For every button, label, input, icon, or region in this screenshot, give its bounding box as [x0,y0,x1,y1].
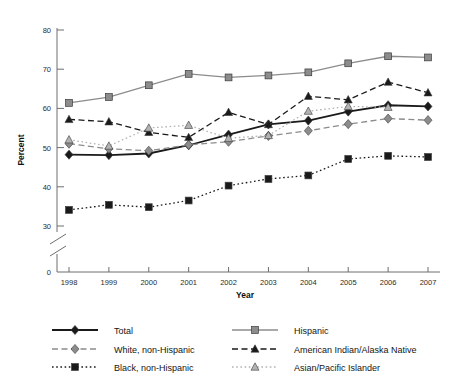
chart-container: 8070605040300 19981999200020012002200320… [0,0,455,382]
x-axis-tick-label: 2000 [140,278,157,287]
x-axis-tick-label: 2003 [260,278,277,287]
legend-label: Total [114,326,133,336]
y-axis-tick-label: 60 [43,104,51,113]
x-axis-tick-label: 1998 [61,278,78,287]
data-point-marker [305,69,312,76]
x-axis-tick-label: 2002 [220,278,237,287]
data-point-marker [252,327,259,334]
data-point-marker [225,74,232,81]
data-point-marker [385,53,392,60]
legend-label: Asian/Pacific Islander [294,363,380,373]
data-point-marker [425,54,432,61]
data-point-marker [305,172,312,179]
data-point-marker [345,156,352,163]
data-point-marker [66,100,73,107]
y-axis-tick-label: 30 [43,222,51,231]
x-axis-tick-label: 2007 [420,278,437,287]
data-point-marker [225,182,232,189]
x-axis-tick-label: 1999 [101,278,118,287]
x-axis-tick-label: 2006 [380,278,397,287]
legend-label: White, non-Hispanic [114,345,195,355]
data-point-marker [185,71,192,78]
x-axis-tick-label: 2005 [340,278,357,287]
data-point-marker [72,364,79,371]
x-axis-tick-label: 2004 [300,278,317,287]
legend-label: American Indian/Alaska Native [294,345,417,355]
x-axis-title: Year [236,290,255,300]
y-axis-tick-label: 50 [43,144,51,153]
y-axis-tick-label: 40 [43,183,51,192]
x-axis-tick-label: 2001 [180,278,197,287]
y-axis-tick-label: 70 [43,65,51,74]
data-point-marker [105,201,112,208]
y-axis-tick-label: 80 [43,26,51,35]
legend-label: Black, non-Hispanic [114,363,194,373]
y-axis-title: Percent [16,134,26,165]
data-point-marker [185,197,192,204]
data-point-marker [345,60,352,67]
data-point-marker [66,207,73,214]
y-axis-zero-label: 0 [47,268,51,277]
data-point-marker [385,152,392,159]
data-point-marker [105,94,112,101]
data-point-marker [265,72,272,79]
legend-label: Hispanic [294,326,329,336]
data-point-marker [425,154,432,161]
data-point-marker [145,204,152,211]
data-point-marker [145,82,152,89]
data-point-marker [265,176,272,183]
line-chart: 8070605040300 19981999200020012002200320… [0,0,455,382]
